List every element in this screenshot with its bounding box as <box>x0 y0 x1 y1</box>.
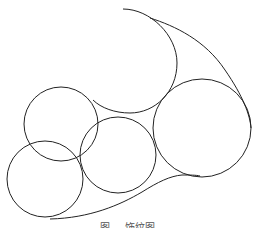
circle-bottom-left <box>7 141 83 217</box>
figure-caption: 图 ... 饰纹图 <box>0 222 255 228</box>
circle-top-left <box>24 87 98 161</box>
top-arc <box>93 9 177 113</box>
circles-diagram <box>0 0 255 228</box>
bottom-curve <box>50 175 200 219</box>
outer-right-curve <box>150 18 251 128</box>
circle-middle <box>80 117 156 193</box>
